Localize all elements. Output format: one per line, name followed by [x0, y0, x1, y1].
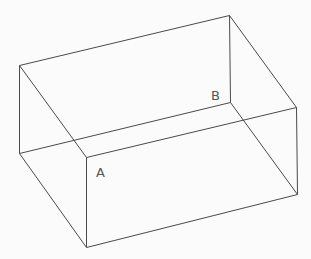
box-edges	[20, 16, 298, 248]
edge-back-top-right-to-back-bottom-right	[230, 16, 231, 103]
edge-back-top-left-to-front-top-left	[20, 66, 87, 158]
edge-front-top-right-to-front-bottom-right	[297, 108, 298, 195]
edge-back-bottom-right-to-front-bottom-right	[231, 103, 298, 195]
edge-back-top-left-to-back-top-right	[20, 16, 230, 66]
edge-back-bottom-left-to-back-bottom-right	[20, 103, 231, 154]
label-b: B	[211, 88, 220, 103]
label-a: A	[96, 165, 105, 180]
edge-back-bottom-left-to-front-bottom-left	[20, 154, 87, 248]
edge-front-bottom-left-to-front-bottom-right	[87, 195, 298, 248]
box-diagram: A B	[0, 0, 311, 259]
edge-back-top-right-to-front-top-right	[230, 16, 297, 108]
